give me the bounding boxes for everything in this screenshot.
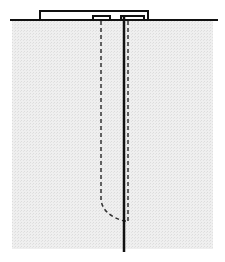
diagram (0, 0, 225, 262)
gray-region (12, 20, 213, 249)
